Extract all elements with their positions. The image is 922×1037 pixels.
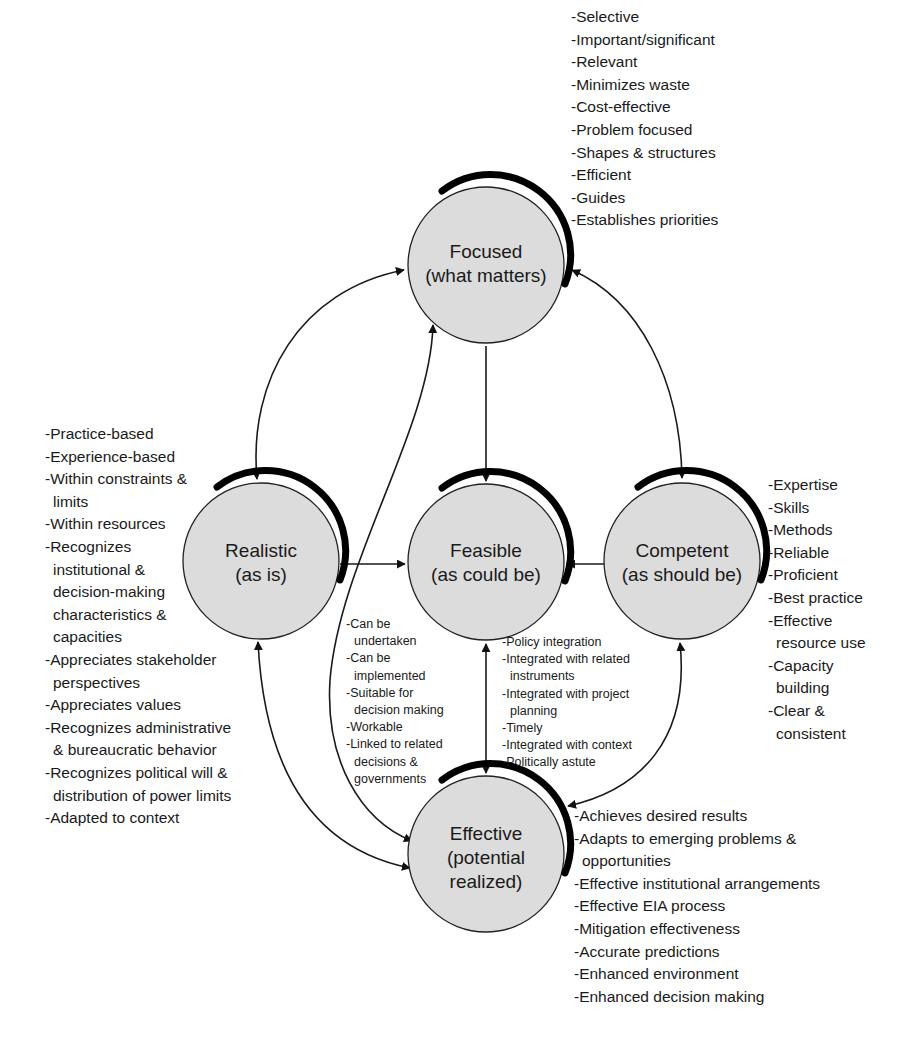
list-item: -Clear & — [768, 700, 866, 723]
list-item: -Suitable for — [346, 685, 444, 702]
list-item: decision making — [346, 702, 444, 719]
feasible-left-attributes-list: -Can be undertaken -Can be implemented -… — [346, 616, 444, 788]
list-item: -Integrated with project — [502, 686, 632, 703]
node-feasible-title: Feasible — [450, 540, 522, 561]
node-focused-subtitle: (what matters) — [425, 265, 546, 286]
list-item: -Best practice — [768, 587, 866, 610]
list-item: -Mitigation effectiveness — [574, 918, 820, 941]
list-item: -Integrated with related — [502, 651, 632, 668]
feasible-right-attributes-list: -Policy integration -Integrated with rel… — [502, 634, 632, 772]
list-item: -Achieves desired results — [574, 805, 820, 828]
node-competent-title: Competent — [636, 540, 730, 561]
node-focused-title: Focused — [450, 241, 523, 262]
focused-attributes-list: -Selective -Important/significant -Relev… — [571, 6, 718, 232]
node-effective-subtitle-1: (potential — [447, 847, 525, 868]
list-item: opportunities — [574, 850, 820, 873]
list-item: -Cost-effective — [571, 96, 718, 119]
list-item: -Methods — [768, 519, 866, 542]
list-item: perspectives — [45, 672, 231, 695]
list-item: -Effective institutional arrangements — [574, 873, 820, 896]
list-item: -Policy integration — [502, 634, 632, 651]
realistic-attributes-list: -Practice-based -Experience-based -Withi… — [45, 423, 231, 830]
list-item: -Practice-based — [45, 423, 231, 446]
edge-focused-realistic — [256, 270, 404, 479]
list-item: -Recognizes — [45, 536, 231, 559]
list-item: -Accurate predictions — [574, 941, 820, 964]
list-item: institutional & — [45, 559, 231, 582]
node-effective: Effective (potential realized) — [408, 764, 571, 932]
list-item: -Appreciates values — [45, 694, 231, 717]
list-item: -Timely — [502, 720, 632, 737]
list-item: governments — [346, 771, 444, 788]
list-item: -Guides — [571, 187, 718, 210]
node-effective-title: Effective — [450, 823, 523, 844]
list-item: -Problem focused — [571, 119, 718, 142]
list-item: -Important/significant — [571, 29, 718, 52]
list-item: -Efficient — [571, 164, 718, 187]
list-item: -Capacity — [768, 655, 866, 678]
node-feasible-subtitle: (as could be) — [431, 564, 541, 585]
list-item: -Effective — [768, 610, 866, 633]
node-competent-subtitle: (as should be) — [622, 564, 742, 585]
list-item: -Within resources — [45, 513, 231, 536]
list-item: characteristics & — [45, 604, 231, 627]
list-item: -Enhanced environment — [574, 963, 820, 986]
list-item: -Can be — [346, 650, 444, 667]
list-item: decisions & — [346, 754, 444, 771]
competent-attributes-list: -Expertise -Skills -Methods -Reliable -P… — [768, 474, 866, 745]
list-item: -Linked to related — [346, 736, 444, 753]
list-item: consistent — [768, 723, 866, 746]
list-item: -Relevant — [571, 51, 718, 74]
list-item: instruments — [502, 668, 632, 685]
node-feasible: Feasible (as could be) — [408, 472, 571, 640]
list-item: -Minimizes waste — [571, 74, 718, 97]
list-item: -Within constraints & — [45, 468, 231, 491]
list-item: undertaken — [346, 633, 444, 650]
node-effective-subtitle-2: realized) — [450, 871, 523, 892]
list-item: distribution of power limits — [45, 785, 231, 808]
list-item: -Can be — [346, 616, 444, 633]
list-item: -Appreciates stakeholder — [45, 649, 231, 672]
list-item: resource use — [768, 632, 866, 655]
list-item: capacities — [45, 626, 231, 649]
edge-focused-competent — [572, 270, 682, 478]
node-competent: Competent (as should be) — [604, 471, 767, 639]
list-item: decision-making — [45, 581, 231, 604]
list-item: implemented — [346, 668, 444, 685]
list-item: -Skills — [768, 497, 866, 520]
list-item: -Effective EIA process — [574, 895, 820, 918]
list-item: -Reliable — [768, 542, 866, 565]
node-realistic-title: Realistic — [225, 540, 297, 561]
list-item: building — [768, 677, 866, 700]
list-item: -Politically astute — [502, 754, 632, 771]
list-item: -Adapted to context — [45, 807, 231, 830]
node-realistic-subtitle: (as is) — [235, 564, 287, 585]
effective-attributes-list: -Achieves desired results -Adapts to eme… — [574, 805, 820, 1008]
list-item: -Integrated with context — [502, 737, 632, 754]
list-item: -Enhanced decision making — [574, 986, 820, 1009]
node-focused: Focused (what matters) — [408, 175, 571, 343]
list-item: & bureaucratic behavior — [45, 739, 231, 762]
list-item: -Expertise — [768, 474, 866, 497]
list-item: -Recognizes political will & — [45, 762, 231, 785]
list-item: -Experience-based — [45, 446, 231, 469]
list-item: -Establishes priorities — [571, 209, 718, 232]
list-item: -Selective — [571, 6, 718, 29]
list-item: -Workable — [346, 719, 444, 736]
list-item: -Proficient — [768, 564, 866, 587]
list-item: -Adapts to emerging problems & — [574, 828, 820, 851]
list-item: -Recognizes administrative — [45, 717, 231, 740]
list-item: planning — [502, 703, 632, 720]
list-item: -Shapes & structures — [571, 142, 718, 165]
list-item: limits — [45, 491, 231, 514]
